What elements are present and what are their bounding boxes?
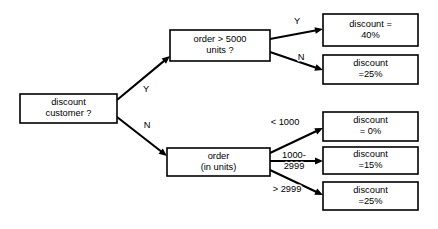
node-root[interactable]: discountcustomer ? bbox=[20, 94, 117, 123]
node-label-line2: 40% bbox=[361, 30, 380, 40]
node-discount-15[interactable]: discount=15% bbox=[323, 147, 418, 174]
edge-label-order-gt-2999: > 2999> 2999 bbox=[273, 184, 302, 194]
edge-label-text: N bbox=[144, 120, 151, 130]
node-label-line2: =15% bbox=[358, 160, 382, 170]
edge-order5000-no bbox=[270, 52, 323, 71]
node-discount-40[interactable]: discount =40% bbox=[323, 14, 418, 46]
decision-tree-diagram: discountcustomer ?order > 5000units ?ord… bbox=[0, 0, 438, 229]
edge-label-order5000-yes: YY bbox=[294, 16, 300, 26]
node-discount-25-top[interactable]: discount=25% bbox=[323, 55, 418, 84]
node-order-gt-5000[interactable]: order > 5000units ? bbox=[170, 30, 270, 61]
node-label-line2: =25% bbox=[358, 196, 382, 206]
edge-label-order-lt-1000: < 1000< 1000 bbox=[271, 117, 300, 127]
edge-label-text: > 2999 bbox=[273, 184, 302, 194]
edge-line bbox=[270, 52, 317, 68]
node-discount-0[interactable]: discount= 0% bbox=[323, 112, 418, 141]
edge-label-text: Y bbox=[294, 16, 300, 26]
edge-arrowhead bbox=[315, 158, 323, 165]
node-label-line2: (in units) bbox=[201, 162, 237, 172]
node-label-line1: discount bbox=[353, 58, 388, 68]
node-label-line2: =25% bbox=[358, 69, 382, 79]
node-label-line2: = 0% bbox=[360, 126, 381, 136]
node-label-line1: discount = bbox=[349, 19, 392, 29]
node-label-line2: customer ? bbox=[46, 108, 92, 118]
edge-label-text: 1000- bbox=[282, 150, 306, 160]
node-label-line2: units ? bbox=[206, 45, 233, 55]
node-label-line1: order > 5000 bbox=[194, 34, 247, 44]
edge-arrowhead bbox=[314, 64, 323, 70]
edge-label-text: N bbox=[298, 52, 305, 62]
decision-tree-canvas: discountcustomer ?order > 5000units ?ord… bbox=[0, 0, 438, 229]
edge-line bbox=[117, 60, 165, 100]
edge-line bbox=[117, 117, 162, 152]
node-label-line1: discount bbox=[353, 185, 388, 195]
edge-arrowhead bbox=[315, 27, 323, 34]
edge-label-text: < 1000 bbox=[271, 117, 300, 127]
edge-label-order5000-no: NN bbox=[298, 52, 305, 62]
edge-label-text: Y bbox=[143, 84, 149, 94]
nodes-layer: discountcustomer ?order > 5000units ?ord… bbox=[20, 14, 418, 210]
edge-order5000-yes bbox=[270, 27, 323, 39]
edge-label-text: 2999 bbox=[284, 161, 305, 171]
node-discount-25-bottom[interactable]: discount=25% bbox=[323, 182, 418, 210]
node-label-line1: discount bbox=[51, 97, 86, 107]
edge-label-root-no: NN bbox=[144, 120, 151, 130]
edge-label-root-yes: YY bbox=[143, 84, 149, 94]
edge-line bbox=[270, 30, 317, 39]
node-order-in-units[interactable]: order(in units) bbox=[167, 148, 270, 176]
edge-root-no bbox=[117, 117, 167, 156]
node-label-line1: discount bbox=[353, 149, 388, 159]
node-label-line1: order bbox=[208, 151, 230, 161]
node-label-line1: discount bbox=[353, 115, 388, 125]
edge-label-order-1000-2999: 1000-1000-29992999 bbox=[282, 150, 306, 171]
